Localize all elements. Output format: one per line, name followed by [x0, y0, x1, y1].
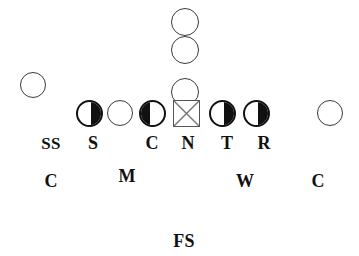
position-label-fs: FS	[173, 232, 194, 250]
half-fill-right	[224, 100, 236, 127]
position-label-c-line: C	[145, 134, 158, 152]
player-marker-lineman-n-crossed-square[interactable]	[173, 100, 200, 127]
player-marker-wide-left[interactable]	[20, 72, 46, 98]
position-label-c-left: C	[44, 172, 57, 190]
position-label-ss: SS	[41, 135, 60, 152]
formation-diagram-canvas: SS S C N T R C M W C FS	[0, 0, 359, 256]
player-marker-receiver-top-2[interactable]	[171, 36, 199, 64]
position-label-r: R	[257, 134, 270, 152]
player-marker-lineman-s[interactable]	[76, 100, 103, 127]
position-label-w: W	[236, 172, 254, 190]
player-marker-wide-right[interactable]	[317, 100, 343, 126]
position-label-c-right: C	[311, 172, 324, 190]
position-label-m: M	[118, 167, 135, 185]
player-marker-lineman-c[interactable]	[139, 100, 166, 127]
player-marker-receiver-top-1[interactable]	[171, 8, 199, 36]
half-fill-right	[91, 100, 103, 127]
player-marker-lineman-t[interactable]	[209, 100, 236, 127]
position-label-n: N	[181, 134, 194, 152]
position-label-t: T	[221, 134, 233, 152]
half-fill-right	[258, 100, 270, 127]
half-fill-left	[139, 100, 151, 127]
position-label-s: S	[88, 134, 98, 152]
cross-icon	[174, 101, 199, 126]
player-marker-lineman-r[interactable]	[243, 100, 270, 127]
player-marker-lineman-open[interactable]	[107, 100, 133, 126]
